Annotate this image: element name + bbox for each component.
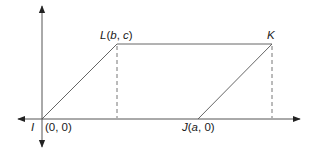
segment-IL (42, 44, 117, 119)
label-J: J(a, 0) (181, 121, 215, 133)
coordinate-diagram: L(b, c) K I (0, 0) J(a, 0) (0, 0, 315, 153)
label-I: I (31, 121, 35, 133)
segment-KJ (198, 44, 272, 119)
label-K: K (267, 29, 276, 41)
label-L: L(b, c) (100, 29, 133, 41)
label-origin-coords: (0, 0) (45, 121, 72, 133)
